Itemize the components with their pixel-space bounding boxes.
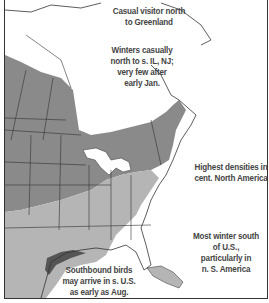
label-line: very few after [95, 66, 189, 77]
label-line: Most winter south [188, 230, 265, 241]
annotation-highest-densities: Highest densities in cent. North America [189, 161, 269, 183]
annotation-winter-casual: Winters casually north to s. IL, NJ; ver… [95, 44, 189, 88]
label-line: Southbound birds [57, 264, 142, 275]
label-line: Casual visitor north [98, 5, 200, 16]
annotation-southbound: Southbound birds may arrive in s. U.S. a… [57, 264, 142, 297]
annotation-greenland: Casual visitor north to Greenland [98, 5, 200, 27]
label-line: early Jan. [95, 77, 189, 88]
label-line: n. S. America [188, 263, 265, 274]
label-line: north to s. IL, NJ; [95, 55, 189, 66]
label-line: Winters casually [95, 44, 189, 55]
label-line: to Greenland [98, 16, 200, 27]
label-line: of U.S., [188, 241, 265, 252]
label-line: cent. North America [189, 172, 269, 183]
range-map: Casual visitor north to Greenland Winter… [4, 0, 268, 299]
label-line: may arrive in s. U.S. [57, 275, 142, 286]
label-line: as early as Aug. [57, 286, 142, 297]
annotation-most-winter: Most winter south of U.S., particularly … [188, 230, 265, 274]
label-line: Highest densities in [189, 161, 269, 172]
caribbean-islands [147, 266, 183, 288]
label-line: particularly in [188, 252, 265, 263]
